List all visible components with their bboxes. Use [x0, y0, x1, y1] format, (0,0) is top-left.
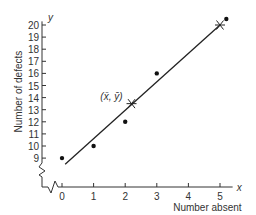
- data-point: [91, 144, 95, 148]
- mean-point-annotation: (x̄, ȳ): [100, 91, 122, 102]
- x-tick-label: 3: [154, 191, 160, 202]
- plot-area: 91011121314151617181920012345yxNumber ab…: [13, 12, 243, 213]
- x-tick-label: 0: [59, 191, 65, 202]
- y-tick-label: 15: [28, 81, 40, 92]
- x-axis-line: [42, 181, 233, 193]
- y-tick-label: 9: [33, 153, 39, 164]
- y-axis-label: Number of defects: [13, 51, 24, 133]
- x-axis-label: Number absent: [173, 202, 242, 213]
- y-tick-label: 18: [28, 44, 40, 55]
- x-tick-label: 4: [186, 191, 192, 202]
- y-tick-label: 13: [28, 105, 40, 116]
- y-tick-label: 19: [28, 32, 40, 43]
- y-tick-label: 11: [29, 129, 40, 140]
- x-tick-label: 2: [122, 191, 128, 202]
- data-point: [123, 120, 127, 124]
- y-axis-symbol: y: [47, 12, 54, 23]
- data-point: [60, 156, 64, 160]
- y-tick-label: 16: [28, 68, 40, 79]
- x-axis-symbol: x: [236, 182, 243, 193]
- x-tick-label: 1: [91, 191, 97, 202]
- data-point: [224, 17, 228, 21]
- regression-line: [65, 25, 220, 164]
- y-tick-label: 14: [28, 93, 40, 104]
- y-tick-label: 12: [28, 117, 40, 128]
- data-point: [155, 71, 159, 75]
- y-tick-label: 10: [28, 141, 40, 152]
- y-axis-break: [39, 163, 45, 187]
- y-tick-label: 20: [28, 20, 40, 31]
- x-tick-label: 5: [217, 191, 223, 202]
- y-tick-label: 17: [28, 56, 40, 67]
- scatter-chart: 91011121314151617181920012345yxNumber ab…: [0, 0, 256, 215]
